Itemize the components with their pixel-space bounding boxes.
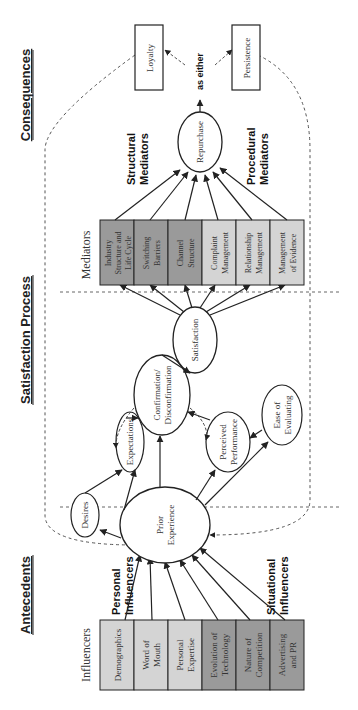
procedural-mediators-label: Procedural [245,128,257,185]
node-label: Repurchase [195,121,205,163]
feedback-loop-top [45,55,135,545]
influencer-label: Advertising [277,633,287,676]
influencer-box [270,620,304,690]
structural-mediators-label: Structural [125,133,137,185]
influencer-box [134,620,168,690]
influencers-heading: Influencers [79,628,93,682]
structural-mediators-label: Mediators [138,133,150,185]
mediator-label: Switching [142,237,151,269]
node-label: Performance [229,419,239,465]
situational-influencers-label: Influencers [278,556,290,615]
mediator-label: Industry [104,240,113,267]
mediator-label: Structure [187,238,196,268]
dashed-arrow [215,50,232,65]
mediator-label: of Evidence [289,233,298,272]
mediators-heading: Mediators [79,230,93,279]
procedural-mediators-label: Mediators [258,133,270,185]
node-label: Ease of [272,402,282,429]
node-label: Satisfaction [190,318,200,361]
node-label: Confirmation/ [152,369,162,420]
influencer-label: Mouth [152,643,162,668]
diagram-canvas: Antecedents Satisfaction Process Consequ… [0,0,358,710]
section-consequences: Consequences [18,49,33,141]
personal-influencers-label: Personal [110,569,122,615]
influencer-label: Demographics [113,628,123,681]
influencer-label: Technology [220,633,230,676]
influencer-boxes: Demographics Word of Mouth Personal Expe… [100,620,304,690]
influencer-label: Personal [175,639,185,670]
mediator-box [236,220,270,285]
node-label: Desires [80,501,90,528]
mediator-box [134,220,168,285]
mediator-box [168,220,202,285]
mediator-label: Structure and [114,232,123,275]
node-label: Disconfirmation [163,365,173,424]
node-label: Perceived [218,424,228,460]
section-antecedents: Antecedents [18,556,33,634]
influencer-label: Competition [254,632,264,678]
influencer-box [168,620,202,690]
influencer-box [236,620,270,690]
influencer-label: and PR [288,642,298,668]
influencer-label: Evolution of [209,632,219,677]
as-either-label: as either [195,52,205,90]
node-ease-of-evaluating [262,385,302,445]
mediator-label: Channel [176,239,185,266]
node-label: Evaluating [283,395,293,434]
mediator-label: Life Cycle [124,236,133,270]
influencer-box [202,620,236,690]
section-satisfaction-process: Satisfaction Process [18,276,33,404]
mediator-label: Management [221,231,230,274]
mediator-label: Barriers [153,240,162,266]
node-label: Expectations [125,418,135,465]
mediator-label: Management [278,231,287,274]
node-perceived-performance [206,412,250,472]
dashed-arrow [165,50,185,65]
mediator-box [202,220,236,285]
influencer-label: Word of [141,640,151,670]
mediator-box [270,220,304,285]
node-label: Prior [155,516,165,534]
mediator-label: Management [255,231,264,274]
node-label: Persistence [242,38,252,79]
mediator-boxes: Industry Structure and Life Cycle Switch… [100,220,304,285]
situational-influencers-label: Situational [265,559,277,615]
influencer-label: Expertise [186,638,196,672]
node-label: Experience [166,505,176,545]
satisfaction-model-diagram: Antecedents Satisfaction Process Consequ… [0,0,358,710]
mediator-label: Relationship [244,233,253,273]
mediator-label: Complaint [210,235,219,270]
node-label: Loyalty [145,44,155,72]
dashed-arrow [190,408,207,440]
influencer-label: Nature of [243,638,253,672]
